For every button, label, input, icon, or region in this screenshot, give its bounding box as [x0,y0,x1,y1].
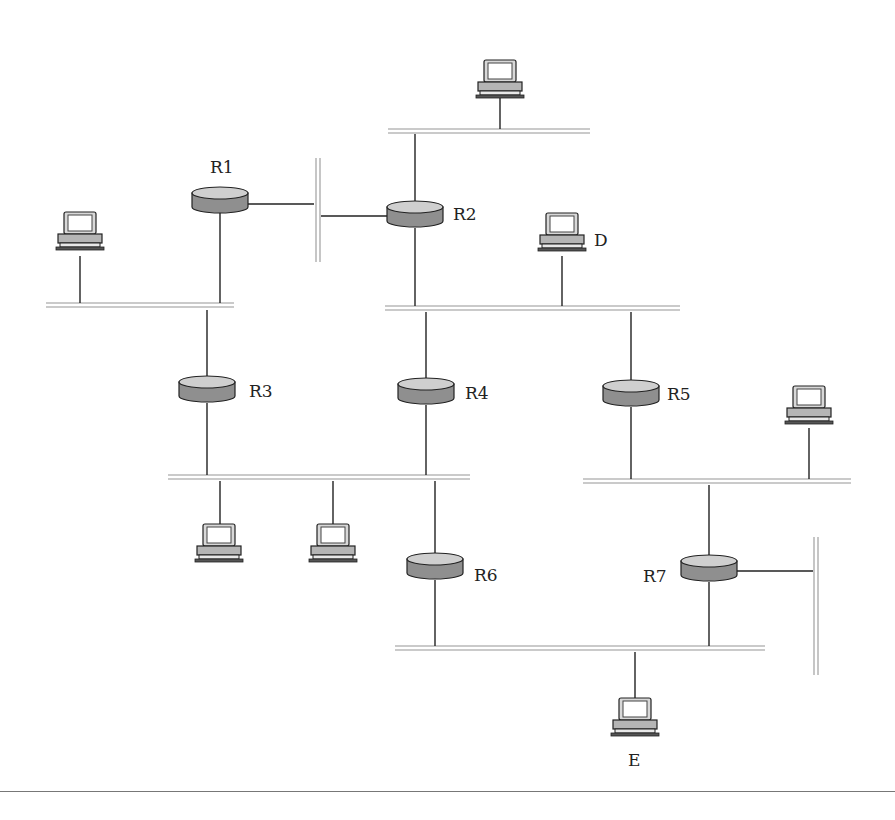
computer-icon-host-D [538,213,586,251]
computer-icon-host-top [476,60,524,98]
router-label-r6: R6 [474,567,498,584]
network-segment-net-right-vert [814,537,818,675]
router-label-r2: R2 [453,206,477,223]
computer-icon-host-left [56,212,104,250]
network-segment-net-lower-right [583,479,851,483]
network-segment-net-top [388,129,590,133]
router-icon-r6 [407,553,463,579]
network-segment-net-bottom [395,646,765,650]
host-label-d: D [594,232,608,249]
router-icon-r5 [603,380,659,406]
router-label-r3: R3 [249,383,273,400]
bottom-rule [0,791,895,792]
computer-icon-host-bl2 [309,524,357,562]
router-icon-r7 [681,555,737,581]
computer-icon-host-bl1 [195,524,243,562]
router-label-r1: R1 [210,159,234,176]
router-icon-r4 [398,378,454,404]
network-segment-net-mid [385,306,680,310]
router-label-r4: R4 [465,385,489,402]
network-segment-net-r1r2 [316,158,320,262]
router-label-r5: R5 [667,386,691,403]
network-diagram [0,0,895,820]
computer-icon-host-right [785,386,833,424]
network-segment-net-left [46,303,234,307]
host-label-e: E [628,752,640,769]
router-icon-r1 [192,187,248,213]
network-segment-net-lower-left [168,475,470,479]
router-icon-r2 [387,201,443,227]
router-icon-r3 [179,376,235,402]
computer-icon-host-E [611,698,659,736]
router-label-r7: R7 [643,568,667,585]
